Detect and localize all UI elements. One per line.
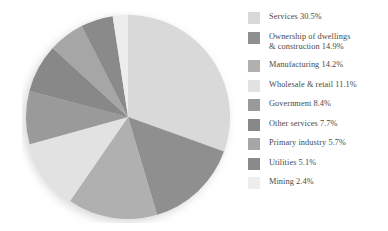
legend-item-label: Ownership of dwellings & construction 14… bbox=[269, 31, 351, 53]
legend-swatch-icon bbox=[248, 32, 260, 44]
pie-chart-graphic bbox=[22, 11, 234, 223]
legend-item[interactable]: Utilities 5.1% bbox=[248, 157, 388, 170]
legend-swatch-icon bbox=[248, 60, 260, 72]
legend-item[interactable]: Primary industry 5.7% bbox=[248, 137, 388, 150]
legend-item-label: Mining 2.4% bbox=[269, 176, 314, 187]
pie-svg bbox=[22, 11, 234, 223]
legend-item-label: Manufacturing 14.2% bbox=[269, 59, 343, 70]
legend-item-label: Utilities 5.1% bbox=[269, 157, 316, 168]
legend-swatch-icon bbox=[248, 119, 260, 131]
legend-item-label: Government 8.4% bbox=[269, 98, 331, 109]
chart-legend: Services 30.5%Ownership of dwellings & c… bbox=[248, 11, 388, 196]
legend-swatch-icon bbox=[248, 99, 260, 111]
legend-swatch-icon bbox=[248, 138, 260, 150]
legend-swatch-icon bbox=[248, 12, 260, 24]
pie-slice-group bbox=[26, 15, 230, 219]
legend-swatch-icon bbox=[248, 80, 260, 92]
legend-item-label: Wholesale & retail 11.1% bbox=[269, 79, 357, 90]
legend-item[interactable]: Services 30.5% bbox=[248, 11, 388, 24]
pie-chart-figure: Services 30.5%Ownership of dwellings & c… bbox=[0, 0, 388, 231]
legend-swatch-icon bbox=[248, 158, 260, 170]
legend-item[interactable]: Wholesale & retail 11.1% bbox=[248, 79, 388, 92]
legend-item[interactable]: Manufacturing 14.2% bbox=[248, 59, 388, 72]
legend-item[interactable]: Other services 7.7% bbox=[248, 118, 388, 131]
legend-item-label: Other services 7.7% bbox=[269, 118, 338, 129]
legend-item-label: Services 30.5% bbox=[269, 11, 322, 22]
legend-item-label: Primary industry 5.7% bbox=[269, 137, 346, 148]
legend-item[interactable]: Mining 2.4% bbox=[248, 176, 388, 189]
legend-swatch-icon bbox=[248, 177, 260, 189]
legend-item[interactable]: Government 8.4% bbox=[248, 98, 388, 111]
legend-item[interactable]: Ownership of dwellings & construction 14… bbox=[248, 31, 388, 53]
